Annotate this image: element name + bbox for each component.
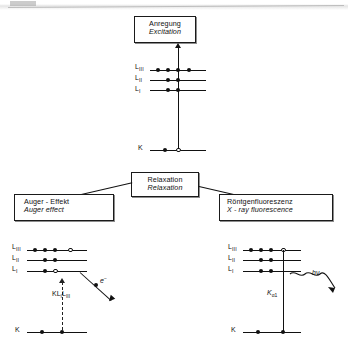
auger-level-label-l3: LIII <box>12 243 21 252</box>
relaxation-label-en: Relaxation <box>137 184 193 192</box>
electron-dot <box>43 248 47 252</box>
relaxation-box: Relaxation Relaxation <box>131 172 199 197</box>
auger-level-label-k: K <box>15 326 20 333</box>
electron-dot <box>43 258 47 262</box>
auger-transition-arrowhead-icon <box>59 278 65 283</box>
electron-dot <box>163 148 167 152</box>
electron-dot <box>40 330 44 334</box>
electron-dot <box>176 68 180 72</box>
electron-dot <box>187 68 191 72</box>
excitation-label-en: Excitation <box>140 28 190 36</box>
xrf-label-en: X - ray fluorescence <box>227 206 327 214</box>
electron-dot <box>53 248 57 252</box>
vacancy-circle <box>68 248 73 253</box>
top-level-label-l1: LI <box>135 85 141 94</box>
electron-dot <box>166 78 170 82</box>
electron-dot <box>53 258 57 262</box>
top-level-label-k: K <box>138 144 143 151</box>
electron-dot <box>269 258 273 262</box>
xrf-transition-line <box>283 250 284 332</box>
xrf-level-line-k <box>243 332 301 333</box>
excitation-arrow-shaft <box>178 48 179 148</box>
electron-dot <box>281 330 285 334</box>
electron-dot <box>156 68 160 72</box>
auger-electron-label: e− <box>100 275 107 284</box>
auger-electron-dot <box>94 283 98 287</box>
auger-label-en: Auger effect <box>24 206 108 214</box>
vacancy-circle <box>53 269 58 274</box>
k-alpha-label: Kα1 <box>267 289 277 298</box>
auger-transition-label: KLILIII <box>52 290 70 299</box>
xrf-level-label-l3: LIII <box>228 243 237 252</box>
electron-dot <box>60 330 64 334</box>
xrf-level-label-l2: LII <box>228 254 235 263</box>
auger-electron-arrowhead-icon <box>107 295 115 303</box>
electron-dot <box>176 78 180 82</box>
auger-level-line-l2 <box>27 260 87 261</box>
xrf-level-label-k: K <box>231 326 236 333</box>
top-level-label-l2: LII <box>135 74 142 83</box>
electron-dot <box>166 68 170 72</box>
top-level-label-l3: LIII <box>135 63 144 72</box>
electron-dot <box>259 269 263 273</box>
figure-canvas: Anregung Excitation LIII LII LI K Relaxa… <box>0 0 348 358</box>
electron-dot <box>259 248 263 252</box>
electron-dot <box>269 269 273 273</box>
photon-label: hν <box>312 269 319 276</box>
xray-fluorescence-box: Röntgenfluoreszenz X - ray fluorescence <box>219 194 333 221</box>
electron-dot <box>166 88 170 92</box>
scan-smudge-artifact <box>10 1 36 6</box>
electron-dot <box>33 248 37 252</box>
excitation-arrowhead-icon <box>175 43 181 48</box>
electron-dot <box>256 330 260 334</box>
electron-dot <box>249 248 253 252</box>
auger-level-line-k <box>27 332 87 333</box>
electron-dot <box>269 248 273 252</box>
xrf-level-label-l1: LI <box>228 265 234 274</box>
excitation-box: Anregung Excitation <box>134 16 196 43</box>
auger-level-label-l2: LII <box>12 254 19 263</box>
core-hole-circle <box>176 148 181 153</box>
electron-dot <box>43 269 47 273</box>
electron-dot <box>259 258 263 262</box>
auger-level-label-l1: LI <box>12 265 18 274</box>
electron-dot <box>176 88 180 92</box>
auger-effect-box: Auger - Effekt Auger effect <box>14 194 114 221</box>
